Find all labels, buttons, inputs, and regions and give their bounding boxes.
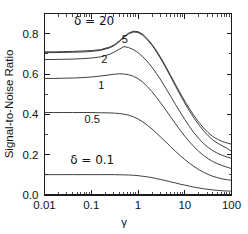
plot-frame [45,14,232,196]
y-tick-label: 0.4 [23,108,40,120]
axis-ticks [45,14,232,196]
y-tick-label: 0.2 [23,149,39,161]
y-tick-labels: 0.00.20.40.60.8 [23,28,40,201]
x-tick-label: 1 [135,199,141,211]
curve-annotations: δ = 205210.5δ = 0.1 [70,14,128,167]
curve-series-5 [45,175,232,192]
curve-series-0 [45,31,232,144]
curve-annotation-0: δ = 20 [74,14,114,28]
curve-annotation-4: 0.5 [85,113,100,125]
y-tick-label: 0.8 [23,28,39,40]
curve-annotation-1: 5 [122,33,128,45]
curve-series-2 [45,47,232,159]
x-axis-label: γ [121,216,127,228]
curve-series-4 [45,113,232,181]
x-tick-label: 10 [178,199,191,211]
y-tick-label: 0.0 [23,189,39,201]
snr-line-chart: 0.010.1110100 0.00.20.40.60.8 δ = 205210… [0,0,248,234]
x-tick-labels: 0.010.1110100 [33,199,241,211]
x-tick-label: 0.1 [83,199,99,211]
y-tick-label: 0.6 [23,68,39,80]
chart-figure: 0.010.1110100 0.00.20.40.60.8 δ = 205210… [0,0,248,234]
data-curves [45,31,232,191]
x-tick-label: 100 [222,199,241,211]
curve-annotation-2: 2 [101,53,107,65]
y-axis-label: Signal-to-Noise Ratio [3,50,15,159]
curve-annotation-3: 1 [98,79,104,91]
curve-series-1 [45,32,232,151]
curve-annotation-5: δ = 0.1 [70,153,114,167]
